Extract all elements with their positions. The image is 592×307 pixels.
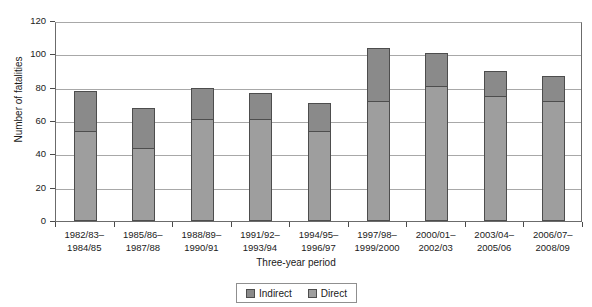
bar-segment-direct[interactable]: [484, 96, 507, 221]
y-axis-tick-label: 100: [0, 49, 46, 59]
x-axis-tick: [114, 222, 115, 227]
legend-swatch-icon: [308, 289, 317, 298]
gridline: [56, 55, 581, 56]
y-axis-tick-label: 40: [0, 149, 46, 159]
x-axis-tick: [172, 222, 173, 227]
bar-segment-indirect[interactable]: [249, 93, 272, 120]
y-axis-tick-label: 60: [0, 116, 46, 126]
y-axis-tick-label: 80: [0, 83, 46, 93]
stacked-bar-chart: Number of fatalities 020406080100120 198…: [0, 0, 592, 307]
x-axis-tick: [55, 222, 56, 227]
chart-legend: IndirectDirect: [236, 283, 357, 303]
x-axis-tick: [406, 222, 407, 227]
bar-segment-indirect[interactable]: [367, 48, 390, 101]
bar-segment-direct[interactable]: [191, 119, 214, 221]
bar-stack[interactable]: [367, 48, 390, 221]
y-axis-tick-label: 20: [0, 183, 46, 193]
x-axis-tick: [231, 222, 232, 227]
bar-segment-direct[interactable]: [308, 131, 331, 221]
x-axis-title: Three-year period: [0, 257, 592, 268]
bar-segment-indirect[interactable]: [132, 108, 155, 148]
bar-segment-direct[interactable]: [74, 131, 97, 221]
bar-stack[interactable]: [191, 88, 214, 221]
bar-stack[interactable]: [308, 103, 331, 221]
bar-segment-direct[interactable]: [367, 101, 390, 221]
bar-segment-indirect[interactable]: [425, 53, 448, 86]
legend-label: Indirect: [259, 288, 292, 299]
x-axis-tick-label-line: 2006/07–: [516, 229, 590, 242]
bar-segment-direct[interactable]: [425, 86, 448, 221]
bar-segment-indirect[interactable]: [484, 71, 507, 96]
bar-segment-direct[interactable]: [132, 148, 155, 221]
bar-stack[interactable]: [484, 71, 507, 221]
legend-swatch-icon: [246, 289, 255, 298]
bar-segment-indirect[interactable]: [191, 88, 214, 120]
legend-label: Direct: [321, 288, 347, 299]
bar-stack[interactable]: [132, 108, 155, 221]
bar-segment-indirect[interactable]: [542, 76, 565, 101]
x-axis-tick: [465, 222, 466, 227]
legend-item[interactable]: Indirect: [246, 288, 292, 299]
bar-segment-direct[interactable]: [249, 119, 272, 221]
gridline: [56, 22, 581, 23]
bar-segment-indirect[interactable]: [308, 103, 331, 131]
bar-stack[interactable]: [425, 53, 448, 221]
bar-segment-indirect[interactable]: [74, 91, 97, 131]
plot-area: [55, 22, 582, 222]
x-axis-tick: [582, 222, 583, 227]
bar-stack[interactable]: [74, 91, 97, 221]
x-axis-tick: [348, 222, 349, 227]
bar-segment-direct[interactable]: [542, 101, 565, 221]
x-axis-tick-label-line: 2008/09: [516, 242, 590, 255]
y-axis-tick-label: 120: [0, 16, 46, 26]
x-axis-tick: [523, 222, 524, 227]
x-axis-tick: [289, 222, 290, 227]
y-axis-tick-label: 0: [0, 216, 46, 226]
bar-stack[interactable]: [542, 76, 565, 221]
x-axis-tick-label: 2006/07–2008/09: [516, 229, 590, 254]
legend-item[interactable]: Direct: [308, 288, 347, 299]
bar-stack[interactable]: [249, 93, 272, 221]
